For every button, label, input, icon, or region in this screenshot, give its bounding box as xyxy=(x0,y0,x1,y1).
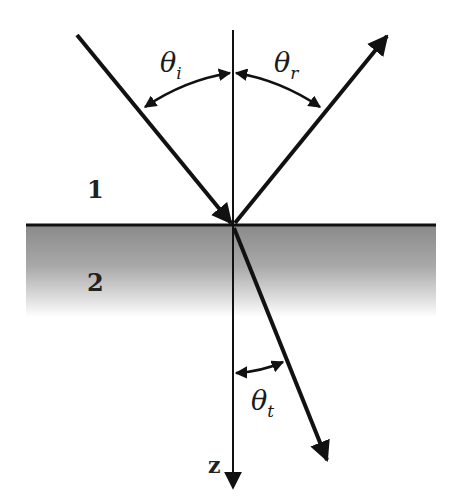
theta-r-label: θr xyxy=(274,47,299,83)
transmitted-angle-arc xyxy=(236,362,283,373)
theta-t-label: θt xyxy=(251,385,274,421)
incident-angle-arc xyxy=(145,73,230,107)
refraction-diagram: θi θr θt 1 2 z xyxy=(0,0,455,501)
medium-1-label: 1 xyxy=(87,175,104,204)
z-axis-label: z xyxy=(208,452,221,478)
reflected-ray-arrow xyxy=(235,36,387,223)
reflected-angle-arc xyxy=(236,73,320,107)
theta-i-label: θi xyxy=(160,47,182,83)
medium-2-label: 2 xyxy=(87,268,104,297)
